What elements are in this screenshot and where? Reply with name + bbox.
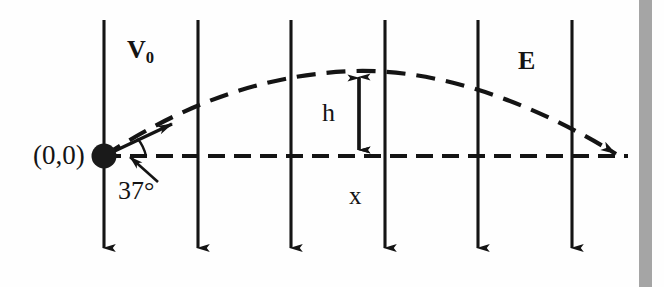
launch-angle-arc bbox=[138, 139, 147, 157]
range-label: x bbox=[349, 183, 362, 208]
origin-coordinate-label: (0,0) bbox=[33, 142, 85, 169]
launch-angle-label: 37° bbox=[118, 178, 154, 204]
origin-point-marker bbox=[92, 144, 117, 169]
scan-edge-artifact bbox=[639, 0, 652, 287]
initial-velocity-subscript: 0 bbox=[146, 48, 154, 67]
field-line-group bbox=[104, 20, 572, 248]
electric-field-label: E bbox=[518, 48, 535, 74]
diagram-canvas bbox=[0, 0, 664, 287]
initial-velocity-symbol: V bbox=[127, 35, 146, 64]
initial-velocity-label: V0 bbox=[127, 37, 154, 66]
max-height-label: h bbox=[322, 100, 335, 126]
physics-diagram-figure: (0,0) V0 37° h x E bbox=[0, 0, 664, 287]
